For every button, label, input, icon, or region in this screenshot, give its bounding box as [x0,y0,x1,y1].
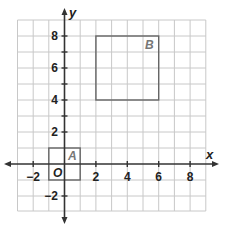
y-tick-label: 6 [51,61,58,75]
x-axis-left-arrow-icon [4,161,11,167]
square-a-label: A [67,149,77,163]
origin-label: O [53,166,63,180]
y-tick-label: −2 [44,189,58,203]
coordinate-plane: x y −2 2 4 6 8 8 6 4 2 −2 O A B [0,0,227,230]
x-tick-label: 2 [93,170,100,184]
y-tick-label: 2 [51,125,58,139]
grid-lines [18,20,206,211]
x-tick-label: 6 [155,170,162,184]
y-axis-up-arrow-icon [62,8,68,15]
y-tick-label: 8 [51,29,58,43]
x-tick-label: 8 [187,170,194,184]
y-axis-down-arrow-icon [62,217,68,224]
x-tick-label: 4 [124,170,131,184]
y-axis-label: y [68,5,77,20]
x-axis-label: x [205,147,214,162]
y-tick-label: 4 [51,93,58,107]
x-tick-label: −2 [26,170,40,184]
square-b-label: B [145,38,154,52]
